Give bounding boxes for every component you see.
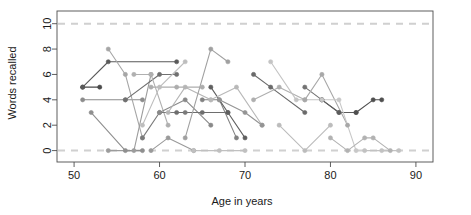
- data-point: [200, 98, 204, 102]
- data-point: [149, 72, 153, 76]
- data-point: [303, 98, 307, 102]
- data-point: [106, 47, 110, 51]
- data-point: [140, 136, 144, 140]
- data-point: [166, 110, 170, 114]
- data-point: [123, 98, 127, 102]
- x-tick-label: 50: [68, 169, 80, 181]
- data-point: [132, 72, 136, 76]
- data-point: [183, 98, 187, 102]
- data-point: [269, 85, 273, 89]
- data-point: [328, 136, 332, 140]
- y-tick-label: 10: [41, 18, 53, 30]
- data-point: [380, 148, 384, 152]
- data-point: [192, 148, 196, 152]
- data-point: [157, 72, 161, 76]
- data-point: [209, 98, 213, 102]
- data-point: [371, 98, 375, 102]
- x-tick-label: 70: [239, 169, 251, 181]
- data-point: [363, 136, 367, 140]
- data-point: [81, 98, 85, 102]
- x-tick-label: 90: [410, 169, 422, 181]
- data-point: [251, 98, 255, 102]
- data-point: [371, 136, 375, 140]
- data-point: [183, 85, 187, 89]
- data-point: [320, 98, 324, 102]
- data-point: [226, 60, 230, 64]
- data-point: [209, 123, 213, 127]
- data-point: [140, 98, 144, 102]
- y-tick-label: 4: [41, 97, 53, 103]
- y-tick-label: 2: [41, 122, 53, 128]
- data-point: [183, 110, 187, 114]
- data-point: [183, 60, 187, 64]
- data-point: [260, 123, 264, 127]
- data-point: [251, 72, 255, 76]
- data-point: [175, 60, 179, 64]
- data-point: [149, 85, 153, 89]
- data-point: [89, 110, 93, 114]
- data-point: [217, 148, 221, 152]
- data-point: [123, 148, 127, 152]
- data-point: [226, 110, 230, 114]
- data-point: [175, 110, 179, 114]
- data-point: [132, 148, 136, 152]
- data-point: [200, 85, 204, 89]
- data-point: [157, 110, 161, 114]
- data-point: [303, 148, 307, 152]
- data-point: [157, 85, 161, 89]
- data-point: [243, 148, 247, 152]
- data-point: [320, 72, 324, 76]
- data-point: [269, 60, 273, 64]
- data-point: [303, 85, 307, 89]
- data-point: [337, 110, 341, 114]
- chart-container: 0246810 5060708090 Words recalled Age in…: [0, 0, 471, 215]
- data-point: [294, 98, 298, 102]
- data-point: [337, 98, 341, 102]
- data-point: [183, 136, 187, 140]
- data-point: [140, 148, 144, 152]
- data-point: [106, 60, 110, 64]
- data-point: [243, 110, 247, 114]
- x-axis-title: Age in years: [211, 195, 273, 207]
- y-tick-label: 6: [41, 71, 53, 77]
- data-point: [175, 85, 179, 89]
- data-point: [277, 123, 281, 127]
- data-point: [234, 136, 238, 140]
- y-axis-title: Words recalled: [6, 46, 18, 119]
- data-point: [209, 85, 213, 89]
- data-point: [166, 123, 170, 127]
- data-point: [140, 123, 144, 127]
- data-point: [354, 148, 358, 152]
- x-tick-label: 80: [324, 169, 336, 181]
- data-point: [243, 136, 247, 140]
- data-point: [106, 148, 110, 152]
- data-point: [234, 85, 238, 89]
- data-point: [123, 72, 127, 76]
- data-point: [303, 110, 307, 114]
- data-point: [217, 98, 221, 102]
- data-point: [209, 47, 213, 51]
- data-point: [345, 148, 349, 152]
- data-point: [388, 148, 392, 152]
- y-tick-label: 8: [41, 46, 53, 52]
- data-point: [354, 110, 358, 114]
- y-tick-label: 0: [41, 148, 53, 154]
- data-point: [277, 85, 281, 89]
- data-point: [397, 148, 401, 152]
- data-point: [200, 110, 204, 114]
- data-point: [166, 136, 170, 140]
- data-point: [175, 72, 179, 76]
- data-point: [363, 148, 367, 152]
- x-tick-label: 60: [153, 169, 165, 181]
- data-point: [98, 85, 102, 89]
- data-point: [328, 123, 332, 127]
- words-recalled-vs-age-chart: 0246810 5060708090 Words recalled Age in…: [0, 0, 471, 215]
- data-point: [380, 98, 384, 102]
- data-point: [81, 85, 85, 89]
- data-point: [149, 148, 153, 152]
- data-point: [345, 123, 349, 127]
